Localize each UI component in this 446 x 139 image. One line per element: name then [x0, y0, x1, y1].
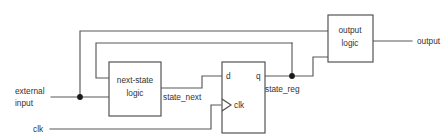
- junction-external-input: [77, 94, 83, 100]
- label-output-logic-line1: output: [338, 25, 362, 35]
- label-external-input-line1: external: [15, 86, 45, 96]
- fsm-block-diagram: external input clk next-state logic stat…: [0, 0, 446, 139]
- label-next-state-logic-line2: logic: [126, 88, 143, 98]
- diagram-canvas: external input clk next-state logic stat…: [0, 0, 446, 139]
- label-clk-signal: clk: [33, 124, 44, 134]
- label-state-next: state_next: [163, 92, 202, 102]
- label-next-state-logic-line1: next-state: [117, 75, 154, 85]
- label-pin-q: q: [256, 71, 261, 81]
- wire-state-next: [161, 76, 222, 88]
- label-output-signal: output: [417, 36, 441, 46]
- label-external-input-line2: input: [15, 98, 34, 108]
- label-pin-clk: clk: [234, 100, 245, 110]
- label-output-logic-line2: logic: [341, 38, 358, 48]
- wire-state-reg-to-output-logic: [265, 57, 328, 76]
- junction-state-reg: [289, 73, 295, 79]
- label-state-reg: state_reg: [265, 84, 300, 94]
- label-pin-d: d: [226, 71, 231, 81]
